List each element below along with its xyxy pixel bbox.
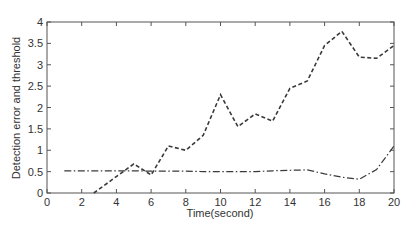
x-tick-label: 18 (353, 196, 365, 208)
x-tick-label: 6 (148, 196, 154, 208)
y-tick-label: 2 (37, 102, 43, 114)
line-chart: 0246810121416182000.511.522.533.54 Time(… (0, 0, 407, 232)
y-tick-label: 3 (37, 59, 43, 71)
series-threshold (64, 146, 394, 179)
y-tick-label: 2.5 (28, 80, 43, 92)
y-tick-label: 1 (37, 144, 43, 156)
x-tick-label: 2 (79, 196, 85, 208)
y-tick-label: 3.5 (28, 37, 43, 49)
x-tick-label: 16 (318, 196, 330, 208)
plot-series (64, 31, 394, 193)
y-axis-label: Detection error and threshold (10, 37, 22, 179)
x-tick-label: 20 (388, 196, 400, 208)
x-tick-label: 0 (44, 196, 50, 208)
series-detection-error (94, 31, 394, 193)
y-tick-label: 1.5 (28, 123, 43, 135)
y-tick-label: 0 (37, 187, 43, 199)
y-tick-label: 0.5 (28, 166, 43, 178)
x-axis-label: Time(second) (187, 207, 254, 219)
x-tick-label: 4 (113, 196, 119, 208)
plot-frame (47, 22, 394, 193)
x-tick-label: 14 (284, 196, 296, 208)
y-tick-label: 4 (37, 16, 43, 28)
